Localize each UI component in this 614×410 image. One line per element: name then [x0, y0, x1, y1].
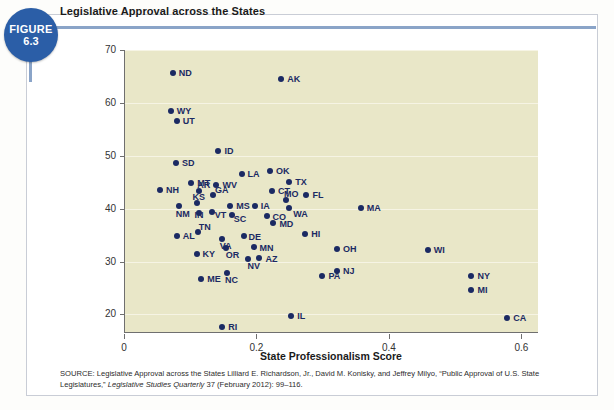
data-point-ca: [504, 315, 510, 321]
data-point-label-ms: MS: [236, 201, 250, 211]
data-point-mn: [251, 244, 257, 250]
data-point-label-wa: WA: [293, 209, 308, 219]
data-point-label-ar: AR: [197, 180, 210, 190]
x-axis-tick-label: 0.6: [501, 342, 541, 353]
gridline: [125, 50, 538, 51]
data-point-label-mn: MN: [260, 243, 274, 253]
data-point-label-nc: NC: [225, 275, 238, 285]
data-point-ky: [194, 251, 200, 257]
y-axis-tick-mark: [120, 103, 124, 104]
data-point-al: [174, 233, 180, 239]
source-note: SOURCE: Legislative Approval across the …: [60, 368, 568, 390]
data-point-ia: [252, 203, 258, 209]
data-point-me: [198, 276, 204, 282]
data-point-label-wi: WI: [434, 245, 445, 255]
y-axis-tick-label: 40: [90, 203, 116, 214]
data-point-mt: [188, 180, 194, 186]
x-axis-tick-label: 0: [104, 342, 144, 353]
data-point-label-sd: SD: [182, 158, 195, 168]
data-point-ct: [269, 188, 275, 194]
data-point-ms: [227, 203, 233, 209]
x-axis-tick-label: 0.4: [369, 342, 409, 353]
chart-area: NDAKWYUTIDSDLAOKMTWVTXNHARGACTMOFLKSNMMS…: [0, 0, 614, 410]
y-axis-tick-mark: [120, 156, 124, 157]
data-point-id: [215, 148, 221, 154]
y-axis-tick-label: 70: [90, 44, 116, 55]
y-axis-tick-mark: [120, 50, 124, 51]
x-axis-tick-mark: [389, 334, 390, 339]
data-point-label-nh: NH: [166, 185, 179, 195]
y-axis-tick-label: 60: [90, 97, 116, 108]
data-point-label-or: OR: [226, 250, 240, 260]
data-point-label-ak: AK: [287, 74, 300, 84]
data-point-label-ma: MA: [367, 203, 381, 213]
data-point-de: [241, 233, 247, 239]
data-point-ut: [174, 118, 180, 124]
data-point-label-nv: NV: [248, 261, 261, 271]
data-point-label-ia: IA: [261, 201, 270, 211]
x-axis-label: State Professionalism Score: [124, 350, 538, 362]
data-point-label-ny: NY: [477, 271, 490, 281]
figure-badge: FIGURE 6.3: [4, 8, 58, 62]
y-axis-tick-label: 50: [90, 150, 116, 161]
data-point-label-tx: TX: [295, 177, 307, 187]
gridline: [125, 103, 538, 104]
data-point-md: [270, 220, 276, 226]
data-point-label-ga: GA: [215, 185, 229, 195]
data-point-label-tn: TN: [199, 222, 211, 232]
y-axis-tick-mark: [120, 209, 124, 210]
data-point-mi: [468, 287, 474, 293]
data-point-label-ca: CA: [513, 313, 526, 323]
x-axis-tick-mark: [256, 334, 257, 339]
figure-page: FIGURE 6.3 Legislative Approval across t…: [0, 0, 614, 410]
y-axis-tick-mark: [120, 314, 124, 315]
data-point-label-az: AZ: [265, 254, 277, 264]
plot-region: NDAKWYUTIDSDLAOKMTWVTXNHARGACTMOFLKSNMMS…: [124, 50, 538, 333]
y-axis-tick-mark: [120, 262, 124, 263]
x-axis-tick-mark: [521, 334, 522, 339]
data-point-label-ri: RI: [228, 322, 237, 332]
data-point-tx: [286, 179, 292, 185]
source-italic: Legislative Studies Quarterly: [108, 380, 205, 389]
data-point-label-mo: MO: [284, 189, 299, 199]
data-point-nh: [157, 187, 163, 193]
data-point-label-id: ID: [224, 146, 233, 156]
data-point-nj: [334, 268, 340, 274]
data-point-fl: [303, 192, 309, 198]
y-axis-tick-label: 20: [90, 308, 116, 319]
data-point-label-de: DE: [249, 232, 262, 242]
figure-badge-word: FIGURE: [9, 23, 52, 35]
figure-badge-number: 6.3: [23, 35, 38, 48]
gridline: [125, 262, 538, 263]
data-point-label-ok: OK: [276, 166, 290, 176]
data-point-pa: [319, 273, 325, 279]
data-point-label-sc: SC: [234, 214, 247, 224]
data-point-label-mi: MI: [477, 285, 487, 295]
data-point-label-nm: NM: [176, 209, 190, 219]
y-axis-tick-label: 30: [90, 256, 116, 267]
data-point-label-al: AL: [183, 231, 195, 241]
data-point-label-ky: KY: [203, 249, 216, 259]
data-point-label-in: IN: [195, 210, 204, 220]
data-point-label-ks: KS: [193, 192, 206, 202]
data-point-co: [264, 213, 270, 219]
data-point-wa: [286, 205, 292, 211]
data-point-ny: [468, 273, 474, 279]
data-point-label-md: MD: [279, 219, 293, 229]
figure-title: Legislative Approval across the States: [60, 5, 265, 17]
data-point-sd: [173, 160, 179, 166]
data-point-wy: [168, 108, 174, 114]
data-point-nd: [170, 70, 176, 76]
data-point-label-wy: WY: [177, 106, 192, 116]
data-point-label-hi: HI: [311, 229, 320, 239]
title-rule: [56, 26, 596, 29]
x-axis-tick-mark: [124, 334, 125, 339]
data-point-hi: [302, 231, 308, 237]
data-point-label-la: LA: [248, 169, 260, 179]
data-point-oh: [334, 246, 340, 252]
data-point-il: [288, 313, 294, 319]
data-point-la: [239, 171, 245, 177]
data-point-label-vt: VT: [215, 210, 227, 220]
data-point-ok: [267, 168, 273, 174]
data-point-ak: [278, 76, 284, 82]
